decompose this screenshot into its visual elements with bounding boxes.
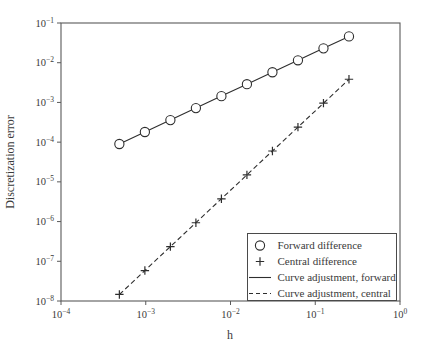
y-axis-label: Discretization error: [3, 115, 17, 209]
x-tick-label: 10−1: [306, 307, 325, 320]
central-difference-marker: [141, 266, 149, 274]
legend-circle-marker-icon: [255, 241, 264, 250]
legend-label: Curve adjustment, forward: [278, 271, 397, 283]
legend: Forward differenceCentral differenceCurv…: [248, 234, 397, 301]
y-tick-label: 10−8: [36, 294, 55, 307]
legend-label: Forward difference: [278, 239, 363, 251]
forward-difference-marker: [217, 92, 226, 101]
legend-label: Curve adjustment, central: [278, 287, 391, 299]
y-tick-label: 10−4: [36, 135, 55, 148]
forward-difference-marker: [319, 44, 328, 53]
y-tick-label: 10−2: [36, 55, 55, 68]
chart-canvas: 10−410−310−210−110010−110−210−310−410−51…: [0, 0, 425, 356]
x-tick-label: 100: [393, 307, 408, 320]
x-tick-label: 10−2: [221, 307, 240, 320]
forward-difference-marker: [242, 80, 251, 89]
forward-difference-marker: [191, 104, 200, 113]
forward-difference-marker: [166, 115, 175, 124]
y-tick-label: 10−5: [36, 174, 55, 187]
forward-difference-marker: [268, 68, 277, 77]
forward-difference-marker: [115, 139, 124, 148]
central-difference-marker: [345, 75, 353, 83]
y-tick-label: 10−1: [36, 16, 55, 29]
figure: 10−410−310−210−110010−110−210−310−410−51…: [0, 0, 425, 356]
y-tick-label: 10−6: [36, 214, 55, 227]
forward-difference-marker: [344, 32, 353, 41]
legend-label: Central difference: [278, 255, 358, 267]
y-tick-label: 10−7: [36, 254, 55, 267]
forward-difference-marker: [293, 56, 302, 65]
y-tick-label: 10−3: [36, 95, 55, 108]
forward-difference-marker: [140, 127, 149, 136]
x-tick-label: 10−3: [137, 307, 156, 320]
central-difference-marker: [268, 147, 276, 155]
x-axis-label: h: [227, 328, 233, 342]
forward-fit-line: [119, 36, 349, 144]
x-tick-label: 10−4: [52, 307, 71, 320]
